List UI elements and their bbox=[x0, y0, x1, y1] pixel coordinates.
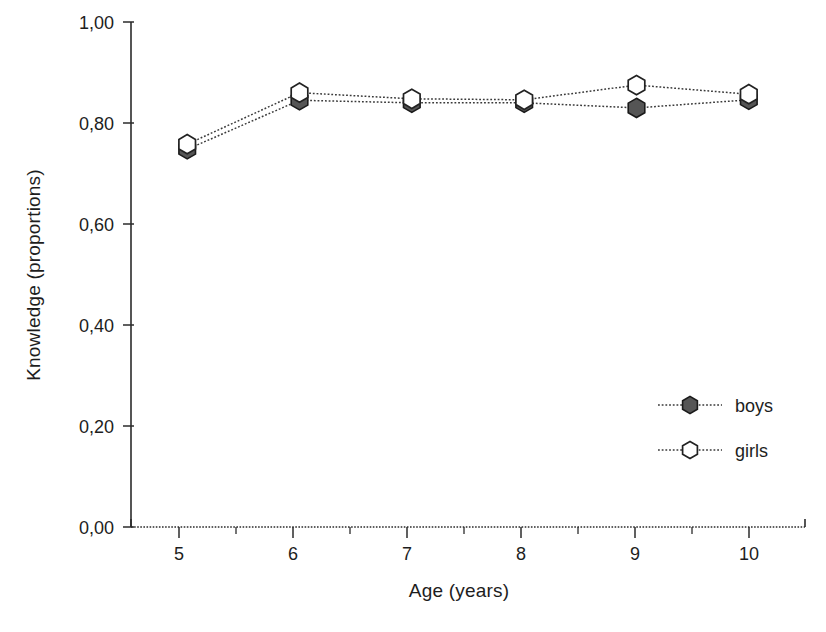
data-point-boys-age-9 bbox=[628, 98, 645, 117]
series-line-girls bbox=[187, 85, 749, 144]
y-tick-label-100: 1,00 bbox=[79, 13, 114, 33]
x-tick-label-8: 8 bbox=[516, 544, 526, 564]
x-axis-title: Age (years) bbox=[409, 580, 509, 601]
x-tick-label-7: 7 bbox=[402, 544, 412, 564]
series-line-boys bbox=[187, 100, 749, 150]
line-chart: 1,00 0,80 0,60 0,40 0,20 0,00 5 6 7 8 9 bbox=[0, 0, 826, 632]
x-tick-label-5: 5 bbox=[174, 544, 184, 564]
chart-figure: 1,00 0,80 0,60 0,40 0,20 0,00 5 6 7 8 9 bbox=[0, 0, 826, 632]
data-point-girls-age-8 bbox=[516, 90, 533, 109]
y-tick-label-040: 0,40 bbox=[79, 316, 114, 336]
legend: boys girls bbox=[658, 396, 773, 461]
x-tick-label-9: 9 bbox=[630, 544, 640, 564]
y-tick-label-060: 0,60 bbox=[79, 215, 114, 235]
data-series-layer bbox=[179, 76, 757, 159]
y-tick-label-000: 0,00 bbox=[79, 518, 114, 538]
legend-label-girls: girls bbox=[735, 441, 768, 461]
legend-entry-girls[interactable]: girls bbox=[658, 441, 768, 461]
legend-marker-boys bbox=[683, 396, 698, 413]
x-axis bbox=[131, 519, 805, 527]
x-tick-label-10: 10 bbox=[739, 544, 759, 564]
data-point-girls-age-5 bbox=[179, 135, 196, 154]
data-point-girls-age-10 bbox=[741, 85, 758, 104]
y-tick-label-020: 0,20 bbox=[79, 417, 114, 437]
data-point-girls-age-6 bbox=[291, 83, 308, 102]
series-boys bbox=[179, 90, 757, 159]
data-point-girls-age-7 bbox=[404, 89, 421, 108]
data-point-girls-age-9 bbox=[628, 76, 645, 95]
y-tick-group: 1,00 0,80 0,60 0,40 0,20 0,00 bbox=[79, 13, 134, 538]
legend-label-boys: boys bbox=[735, 396, 773, 416]
x-tick-group: 5 6 7 8 9 10 bbox=[174, 527, 759, 564]
legend-marker-girls bbox=[683, 441, 698, 458]
x-tick-label-6: 6 bbox=[288, 544, 298, 564]
y-axis-title: Knowledge (proportions) bbox=[23, 169, 44, 381]
y-tick-label-080: 0,80 bbox=[79, 114, 114, 134]
legend-entry-boys[interactable]: boys bbox=[658, 396, 773, 416]
